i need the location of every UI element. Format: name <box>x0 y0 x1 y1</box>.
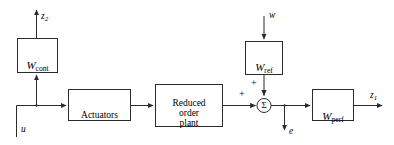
block-reduced-order-plant-outline <box>156 85 223 127</box>
diagram-vector-layer <box>0 0 394 145</box>
junction-dot-e <box>283 104 285 106</box>
block-actuators-outline <box>69 90 131 121</box>
block-w-cont-outline <box>18 39 58 73</box>
summing-junction-circle <box>257 99 271 113</box>
junction-dot-u <box>35 104 37 106</box>
block-w-ref-outline <box>246 42 283 75</box>
wire-u-input <box>17 106 37 138</box>
block-diagram-canvas: Wcont Actuators Reduced order plant Wref… <box>0 0 394 145</box>
block-w-perf-outline <box>313 90 354 121</box>
